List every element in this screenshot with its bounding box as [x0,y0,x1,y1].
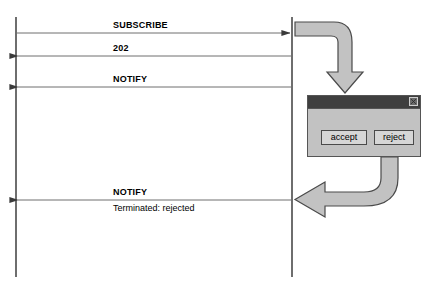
message-label-notify-terminated: NOTIFY [113,187,147,197]
curved-arrow-left-icon [295,157,398,217]
curved-arrow-down-icon [295,22,363,93]
dialog-body: accept reject [308,109,420,147]
message-label-subscribe: SUBSCRIBE [113,20,168,30]
sequence-diagram: SUBSCRIBE 202 NOTIFY NOTIFY Terminated: … [0,0,436,294]
message-label-202: 202 [113,43,129,53]
accept-button[interactable]: accept [321,130,367,145]
message-label-notify-active: NOTIFY [113,74,147,84]
dialog-titlebar[interactable] [308,96,420,109]
close-x-glyph [410,98,417,105]
reject-button[interactable]: reject [374,130,414,145]
close-icon[interactable] [409,97,418,106]
user-prompt-dialog[interactable]: accept reject [307,95,421,157]
message-sublabel-terminated-reason: Terminated: rejected [113,203,195,213]
